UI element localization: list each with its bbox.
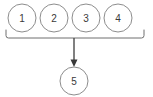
node-1-label: 1 (19, 13, 25, 24)
node-4-label: 4 (115, 13, 121, 24)
merge-arrow-head (71, 60, 78, 68)
diagram-canvas: 1 2 3 4 5 (0, 0, 153, 97)
merge-flow-diagram: 1 2 3 4 5 (0, 0, 153, 97)
node-5[interactable]: 5 (60, 67, 88, 95)
node-1[interactable]: 1 (8, 4, 36, 32)
node-3-label: 3 (83, 13, 89, 24)
node-5-label: 5 (71, 76, 77, 87)
source-node-group: 1 2 3 4 (8, 4, 132, 32)
node-3[interactable]: 3 (72, 4, 100, 32)
node-4[interactable]: 4 (104, 4, 132, 32)
node-2[interactable]: 2 (40, 4, 68, 32)
node-2-label: 2 (51, 13, 57, 24)
